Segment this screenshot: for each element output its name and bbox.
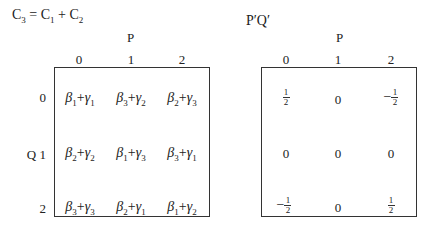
right-col-tick-2: 2 (381, 52, 401, 68)
right-cell-0-2: −12 (361, 88, 421, 107)
left-row-tick-0: 0 (16, 90, 46, 106)
left-col-axis-label: P (127, 30, 134, 46)
left-col-tick-2: 2 (172, 52, 192, 68)
right-table-title: P′Q′ (246, 13, 270, 29)
left-cell-0-2: β2+γ3 (152, 90, 212, 108)
left-row-tick-2: 2 (16, 201, 46, 217)
left-table-title: C3 = C1 + C2 (12, 7, 83, 25)
left-cell-2-2: β1+γ2 (152, 199, 212, 217)
left-cell-1-2: β3+γ1 (152, 145, 212, 163)
right-cell-0-0: 12 (256, 88, 316, 107)
right-cell-1-2: 0 (361, 146, 421, 162)
right-col-axis-label: P (336, 30, 343, 46)
left-col-tick-1: 1 (121, 52, 141, 68)
right-cell-2-1: 0 (308, 200, 368, 216)
right-cell-2-0: −12 (254, 196, 314, 215)
right-cell-0-1: 0 (308, 92, 368, 108)
right-cell-2-2: 12 (361, 196, 421, 215)
left-col-tick-0: 0 (69, 52, 89, 68)
left-row-axis-and-tick-1: Q 1 (10, 147, 46, 163)
right-cell-1-1: 0 (308, 146, 368, 162)
right-col-tick-1: 1 (328, 52, 348, 68)
right-col-tick-0: 0 (276, 52, 296, 68)
right-cell-1-0: 0 (256, 146, 316, 162)
